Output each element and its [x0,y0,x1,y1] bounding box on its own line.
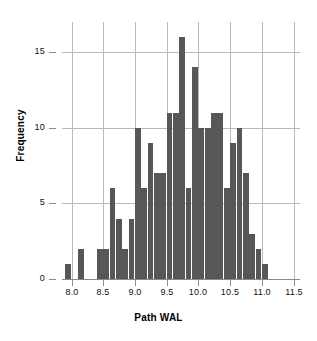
histogram-bar [78,249,84,279]
x-axis-tick [135,280,136,286]
histogram-bar [211,113,217,279]
histogram-bar [217,113,223,279]
histogram-bar [148,143,154,279]
histogram-bar [186,188,192,279]
gridline-vertical [262,22,263,279]
y-axis-tick [49,279,56,280]
histogram-bar [173,113,179,279]
x-axis-tick [294,280,295,286]
y-axis-tick-label: 15 [0,46,45,56]
y-axis-tick-label: 0 [0,273,45,283]
histogram-bar [179,37,185,279]
x-axis-tick [230,280,231,286]
histogram-bar [262,264,268,279]
histogram-bar [249,234,255,279]
y-axis-tick [49,128,56,129]
histogram-bar [160,173,166,279]
x-axis-tick [198,280,199,286]
y-axis-tick-label: 10 [0,122,45,132]
x-axis-label: Path WAL [0,312,317,323]
x-axis-line [62,279,300,280]
histogram-bar [198,128,204,279]
histogram-bar [116,219,122,279]
histogram-bar [97,249,103,279]
histogram-bar [167,113,173,279]
gridline-vertical [294,22,295,279]
gridline-vertical [72,22,73,279]
gridline-vertical [103,22,104,279]
histogram-bar [135,128,141,279]
histogram-bar [230,143,236,279]
histogram-bar [129,219,135,279]
x-axis-tick [103,280,104,286]
y-axis-tick-label: 5 [0,197,45,207]
histogram-bar [141,188,147,279]
y-axis-tick [49,52,56,53]
plot-area [62,22,300,279]
histogram-bar [65,264,71,279]
x-axis-tick [72,280,73,286]
histogram-figure: Path WAL Frequency 8.08.59.09.510.010.51… [0,0,317,341]
y-axis-label: Frequency [15,86,26,186]
histogram-bar [110,188,116,279]
histogram-bar [237,128,243,279]
histogram-bar [224,188,230,279]
x-axis-tick-label: 11.5 [274,287,314,297]
histogram-bar [205,128,211,279]
histogram-bar [256,249,262,279]
histogram-bar [122,249,128,279]
histogram-bar [192,67,198,279]
histogram-bar [154,173,160,279]
histogram-bar [103,249,109,279]
x-axis-tick [262,280,263,286]
x-axis-tick [167,280,168,286]
histogram-bar [243,173,249,279]
y-axis-tick [49,203,56,204]
